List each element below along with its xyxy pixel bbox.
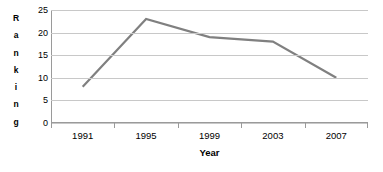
series-line-ranking (51, 10, 368, 123)
x-axis-tick-label: 2003 (262, 130, 283, 142)
y-axis-tick-label: 15 (24, 51, 48, 60)
x-axis-tick (305, 123, 306, 128)
x-axis-tick (241, 123, 242, 128)
y-axis-tick-label: 10 (24, 73, 48, 82)
y-axis-title-letter: k (14, 66, 19, 75)
y-axis-title-letter: i (15, 83, 17, 92)
y-axis-tick-label: 5 (24, 96, 48, 105)
y-axis-tick-label: 25 (24, 6, 48, 15)
y-axis-tick-labels: 0510152025 (24, 8, 48, 123)
y-axis-tick-label: 0 (24, 119, 48, 128)
gridline (51, 10, 368, 11)
x-axis-tick-labels: 19911995199920032007 (51, 130, 368, 144)
x-axis-title: Year (51, 147, 368, 158)
plot-area (51, 10, 368, 123)
x-axis-tick-label: 2007 (326, 130, 347, 142)
y-axis-title: R a n k i n g (8, 14, 24, 126)
x-axis-tick (178, 123, 179, 128)
y-axis-title-letter: a (14, 31, 19, 40)
gridline (51, 78, 368, 79)
y-axis-title-letter: R (13, 14, 19, 23)
y-axis-title-letter: n (13, 100, 18, 109)
x-axis-tick (114, 123, 115, 128)
x-axis-ticks (51, 123, 368, 128)
x-axis-tick (51, 123, 52, 128)
x-axis-tick (367, 123, 368, 128)
y-axis-title-letter: n (13, 49, 18, 58)
y-axis-title-letter: g (13, 118, 18, 127)
x-axis-tick-label: 1991 (72, 130, 93, 142)
gridline (51, 100, 368, 101)
x-axis-tick-label: 1999 (199, 130, 220, 142)
x-axis-tick-label: 1995 (136, 130, 157, 142)
gridline (51, 55, 368, 56)
gridline (51, 33, 368, 34)
y-axis-tick-label: 20 (24, 28, 48, 37)
line-chart: R a n k i n g 0510152025 199119951999200… (0, 0, 383, 172)
